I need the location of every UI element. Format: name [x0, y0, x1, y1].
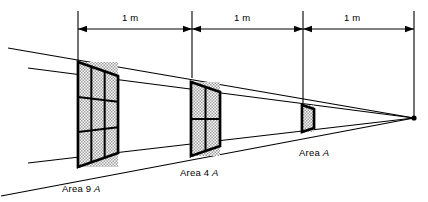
distance-label-2: 1 m	[234, 12, 250, 23]
dimension-arrow-right-1	[183, 26, 192, 32]
panel-a-caption-text: Area	[299, 147, 323, 158]
panel-4a-caption-text: Area 4	[180, 167, 212, 178]
dimension-arrow-left-2	[192, 26, 201, 32]
distance-label-1: 1 m	[122, 12, 138, 23]
figure-container: 1 m1 m1 mArea 9 AArea 4 AArea A	[0, 0, 428, 202]
panel-4a-caption: Area 4 A	[180, 167, 219, 178]
dimension-arrow-right-3	[405, 26, 414, 32]
dimension-arrow-left-3	[303, 26, 312, 32]
panel-a-caption: Area A	[299, 147, 329, 158]
dimension-ruler-group	[78, 11, 414, 118]
distance-label-3: 1 m	[344, 12, 360, 23]
panel-9a-front-fill	[78, 62, 118, 167]
dimension-arrow-right-2	[294, 26, 303, 32]
panel-9a-caption-text: Area 9	[62, 183, 94, 194]
area-panels-group	[78, 62, 314, 167]
panel-9a-caption: Area 9 A	[62, 183, 101, 194]
panel-a	[302, 105, 314, 132]
point-source-dot	[411, 115, 416, 120]
panel-9a	[78, 62, 118, 167]
dimension-arrow-left-1	[78, 26, 87, 32]
panel-a-caption-symbol: A	[323, 147, 330, 158]
point-source-group	[411, 115, 416, 120]
panel-4a-caption-symbol: A	[212, 167, 219, 178]
panel-4a	[191, 82, 220, 156]
panel-9a-caption-symbol: A	[94, 183, 101, 194]
